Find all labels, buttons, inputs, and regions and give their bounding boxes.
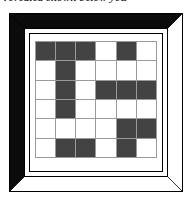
grid-cell-r5-c1[interactable]	[36, 119, 55, 137]
grid-cell-r3-c1[interactable]	[36, 81, 55, 99]
grid-cell-r3-c4[interactable]	[96, 81, 115, 99]
grid-cell-r5-c3[interactable]	[76, 119, 95, 137]
grid-cell-r4-c6[interactable]	[137, 100, 156, 118]
grid-cell-r6-c5[interactable]	[117, 139, 136, 157]
grid-cell-r3-c6[interactable]	[137, 81, 156, 99]
grid-cell-r5-c6[interactable]	[137, 119, 156, 137]
grid-cell-r4-c5[interactable]	[117, 100, 136, 118]
puzzle-grid	[35, 41, 157, 158]
grid-cell-r2-c2[interactable]	[56, 61, 75, 79]
image-canvas: revealed shown below you	[0, 0, 192, 199]
grid-cell-r6-c1[interactable]	[36, 139, 55, 157]
grid-cell-r1-c6[interactable]	[137, 42, 156, 60]
grid-cell-r6-c2[interactable]	[56, 139, 75, 157]
grid-cell-r1-c2[interactable]	[56, 42, 75, 60]
grid-cell-r4-c1[interactable]	[36, 100, 55, 118]
grid-cell-r4-c4[interactable]	[96, 100, 115, 118]
puzzle-grid-container	[35, 41, 157, 158]
grid-cell-r1-c5[interactable]	[117, 42, 136, 60]
grid-cell-r3-c2[interactable]	[56, 81, 75, 99]
picture-frame	[9, 13, 183, 192]
grid-cell-r2-c1[interactable]	[36, 61, 55, 79]
grid-cell-r2-c3[interactable]	[76, 61, 95, 79]
grid-cell-r5-c4[interactable]	[96, 119, 115, 137]
grid-cell-r5-c2[interactable]	[56, 119, 75, 137]
grid-cell-r5-c5[interactable]	[117, 119, 136, 137]
caption-text: revealed shown below you	[4, 0, 188, 3]
grid-cell-r4-c3[interactable]	[76, 100, 95, 118]
grid-cell-r4-c2[interactable]	[56, 100, 75, 118]
grid-cell-r2-c6[interactable]	[137, 61, 156, 79]
grid-cell-r6-c4[interactable]	[96, 139, 115, 157]
grid-cell-r6-c3[interactable]	[76, 139, 95, 157]
grid-cell-r3-c5[interactable]	[117, 81, 136, 99]
grid-cell-r3-c3[interactable]	[76, 81, 95, 99]
grid-cell-r1-c1[interactable]	[36, 42, 55, 60]
grid-cell-r1-c4[interactable]	[96, 42, 115, 60]
grid-cell-r6-c6[interactable]	[137, 139, 156, 157]
grid-cell-r2-c4[interactable]	[96, 61, 115, 79]
grid-cell-r1-c3[interactable]	[76, 42, 95, 60]
grid-cell-r2-c5[interactable]	[117, 61, 136, 79]
